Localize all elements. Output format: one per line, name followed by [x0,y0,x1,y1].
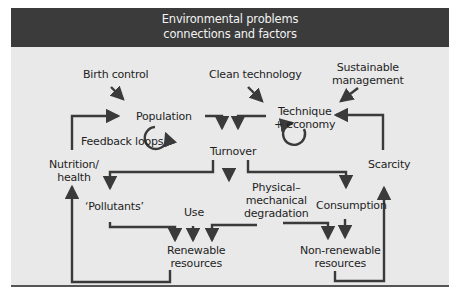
arrow-birthcontrol-population [111,87,123,99]
node-birth-control: Birth control [83,68,148,81]
node-scarcity: Scarcity [368,158,410,171]
node-consumption: Consumption [316,199,387,212]
node-feedback-loops: Feedback loops [81,135,163,148]
arrow-degradation-renewable [212,225,257,240]
node-technique-economy: Technique + economy [274,105,335,131]
node-physical-mechanical-degradation: Physical– mechanical degradation [244,181,309,220]
node-turnover: Turnover [210,145,256,158]
node-population: Population [136,110,192,123]
arrow-turnover-pollutants [110,160,213,188]
arrow-pollutants-renewable [110,222,175,240]
node-pollutants: ‘Pollutants’ [85,200,144,213]
arrow-degradation-nonrenewable [283,223,328,238]
arrow-population-turnover [205,116,222,128]
node-sustainable-management: Sustainable management [332,61,404,87]
node-clean-technology: Clean technology [209,68,302,81]
arrow-cleantech-technique [248,87,262,101]
arrow-sustainable-technique [341,88,358,101]
arrow-scarcity-technique [336,115,383,150]
node-nutrition-health: Nutrition/ health [49,158,99,184]
arrow-technique-turnover [238,116,266,128]
node-renewable-resources: Renewable resources [167,244,225,270]
node-use: Use [184,206,204,219]
node-nonrenewable-resources: Non-renewable resources [300,244,381,270]
